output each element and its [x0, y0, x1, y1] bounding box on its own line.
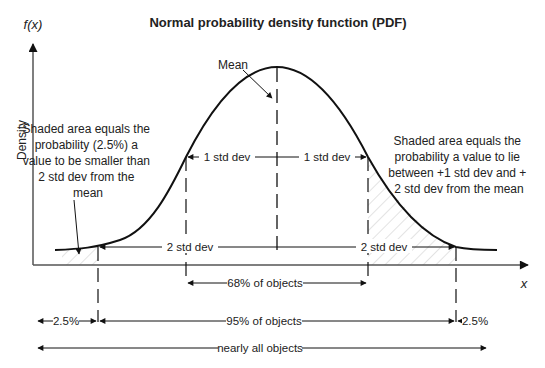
left-note-pointer-arrow [74, 200, 79, 254]
nearly-all-label: nearly all objects [217, 342, 303, 354]
normal-pdf-diagram: Normal probability density function (PDF… [0, 0, 545, 368]
mean-pointer-arrow [243, 70, 272, 98]
x-axis-label: x [520, 276, 528, 291]
left-shaded-note: Shaded area equals the probability (2.5%… [23, 122, 154, 200]
pct95-label: 95% of objects [226, 315, 302, 327]
one-sd-right-label: 1 std dev [304, 151, 351, 163]
right-tail-pct: 2.5% [462, 315, 488, 327]
left-tail-pct: 2.5% [53, 315, 79, 327]
one-sd-left-label: 1 std dev [204, 151, 251, 163]
right-shaded-note: Shaded area equals the probability a val… [388, 134, 529, 196]
chart-title: Normal probability density function (PDF… [149, 15, 406, 30]
y-axis-label: f(x) [24, 17, 43, 32]
two-sd-right-label: 2 std dev [361, 241, 408, 253]
pct68-label: 68% of objects [227, 277, 303, 289]
two-sd-left-label: 2 std dev [167, 241, 214, 253]
